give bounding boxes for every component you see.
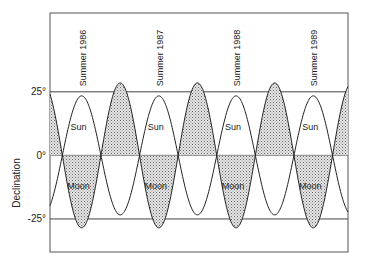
moon-label: Moon bbox=[145, 181, 168, 191]
summer-annotation: Summer 1986 bbox=[78, 30, 88, 87]
moon-label: Moon bbox=[67, 181, 90, 191]
y-tick-label: 25° bbox=[31, 86, 46, 97]
summer-annotation: Summer 1989 bbox=[309, 30, 319, 87]
moon-label: Moon bbox=[222, 181, 245, 191]
y-axis-label: Declination bbox=[11, 158, 22, 207]
y-tick-label: 0° bbox=[36, 150, 46, 161]
y-tick-label: -25° bbox=[28, 213, 46, 224]
declination-chart: 25°0°-25° Summer 1986Summer 1987Summer 1… bbox=[0, 0, 367, 266]
sun-label: Sun bbox=[71, 122, 87, 132]
sun-label: Sun bbox=[302, 122, 318, 132]
moon-label: Moon bbox=[299, 181, 322, 191]
summer-annotation: Summer 1988 bbox=[232, 30, 242, 87]
sun-label: Sun bbox=[225, 122, 241, 132]
summer-annotation: Summer 1987 bbox=[155, 30, 165, 87]
sun-label: Sun bbox=[148, 122, 164, 132]
